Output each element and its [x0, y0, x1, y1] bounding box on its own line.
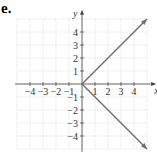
- y-tick-label: −4: [67, 131, 78, 142]
- x-axis-label: x: [153, 85, 157, 96]
- x-tick-label: −2: [51, 86, 62, 97]
- y-tick-label: 2: [73, 53, 78, 64]
- x-tick-label: 4: [132, 86, 137, 97]
- x-tick-label: 2: [106, 86, 111, 97]
- y-axis-arrow-icon: [80, 10, 84, 15]
- x-tick-label: −4: [25, 86, 36, 97]
- ray-line: [82, 84, 147, 149]
- x-tick-label: 3: [119, 86, 124, 97]
- y-tick-label: 1: [73, 66, 78, 77]
- y-tick-label: 3: [73, 40, 78, 51]
- y-tick-label: −2: [67, 105, 78, 116]
- y-tick-label: 4: [73, 27, 78, 38]
- y-axis-label: y: [72, 8, 78, 19]
- graph: −4−3−2−11234−4−3−2−11234xy: [0, 0, 157, 154]
- x-tick-label: −3: [38, 86, 49, 97]
- y-tick-label: −1: [67, 92, 78, 103]
- y-tick-label: −3: [67, 118, 78, 129]
- ray-line: [82, 19, 147, 84]
